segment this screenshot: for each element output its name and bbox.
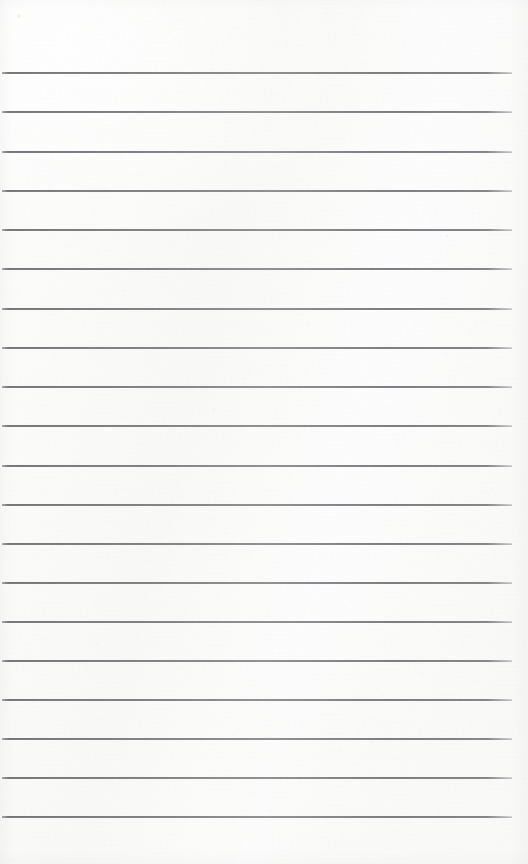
ruled-lines-group xyxy=(0,0,528,864)
rule-line xyxy=(2,268,512,270)
rule-line xyxy=(2,190,512,192)
rule-line xyxy=(2,386,512,388)
rule-line xyxy=(2,151,512,153)
rule-line xyxy=(2,543,512,545)
rule-line xyxy=(2,660,512,662)
rule-line xyxy=(2,72,512,74)
rule-line xyxy=(2,308,512,310)
rule-line xyxy=(2,699,512,701)
rule-line xyxy=(2,582,512,584)
rule-line xyxy=(2,347,512,349)
rule-line xyxy=(2,465,512,467)
rule-line xyxy=(2,504,512,506)
rule-line xyxy=(2,816,512,818)
rule-line xyxy=(2,111,512,113)
lined-paper-sheet xyxy=(0,0,528,864)
rule-line xyxy=(2,621,512,623)
rule-line xyxy=(2,777,512,779)
rule-line xyxy=(2,229,512,231)
rule-line xyxy=(2,425,512,427)
rule-line xyxy=(2,738,512,740)
